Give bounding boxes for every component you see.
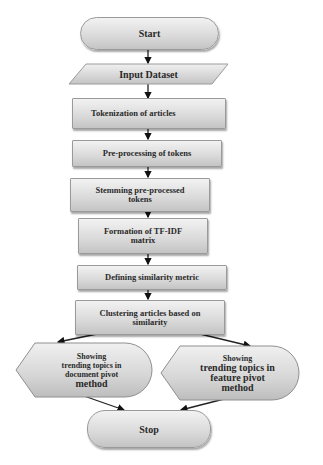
input-dataset-label: Input Dataset [119, 70, 178, 79]
stop-label: Stop [139, 425, 158, 434]
doc-pivot-line2: trending topics in [48, 361, 122, 370]
preprocessing-node: Pre-processing of tokens [72, 140, 222, 167]
tokenization-label: Tokenization of articles [91, 109, 176, 118]
start-label: Start [139, 29, 161, 38]
similarity-metric-node: Defining similarity metric [77, 265, 227, 290]
feat-pivot-line3: feature pivot [196, 373, 265, 383]
clustering-node: Clustering articles based on similarity [75, 300, 225, 335]
document-pivot-node: Showing trending topics in document pivo… [15, 342, 154, 398]
feature-pivot-node: Showing trending topics in feature pivot… [160, 345, 301, 401]
input-dataset-node: Input Dataset [68, 63, 229, 85]
feat-pivot-line2: trending topics in [186, 363, 275, 373]
feat-pivot-line4: method [207, 383, 253, 393]
clustering-label: Clustering articles based on similarity [96, 309, 204, 327]
similarity-metric-label: Defining similarity metric [105, 273, 199, 282]
tfidf-node: Formation of TF-IDF matrix [78, 218, 208, 254]
preprocessing-label: Pre-processing of tokens [103, 149, 191, 158]
doc-pivot-line4: method [61, 379, 107, 389]
stop-node: Stop [87, 410, 211, 448]
tokenization-node: Tokenization of articles [72, 98, 226, 129]
start-node: Start [80, 17, 219, 50]
stemming-node: Stemming pre-processed tokens [70, 178, 210, 212]
doc-pivot-line1: Showing [63, 352, 106, 361]
tfidf-label: Formation of TF-IDF matrix [101, 227, 185, 245]
stemming-label: Stemming pre-processed tokens [93, 186, 187, 204]
